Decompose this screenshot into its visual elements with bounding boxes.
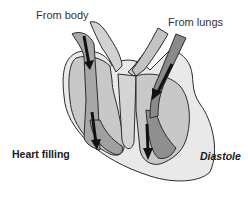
heart-diagram [0,0,248,206]
label-diastole: Diastole [200,151,241,162]
label-heart-filling: Heart filling [12,149,70,160]
label-from-body: From body [36,10,89,21]
label-from-lungs: From lungs [168,17,223,28]
